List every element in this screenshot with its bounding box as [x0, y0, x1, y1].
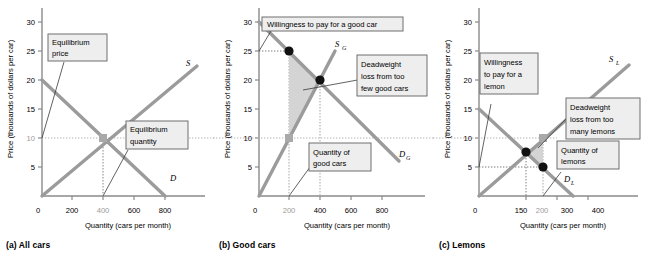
callout-deadweight-good-line1: Deadweight — [361, 60, 402, 69]
y-tick-a-30: 30 — [27, 18, 35, 27]
callout-quantity-lemons-line2: lemons — [561, 157, 586, 166]
supply-curve-label-b: S — [335, 39, 340, 49]
equilibrium-point-marker-a — [99, 134, 107, 142]
willingness-to-pay-marker-b — [284, 46, 293, 55]
leader-equilibrium-quantity-a — [103, 150, 128, 196]
y-tick-a-25: 25 — [27, 47, 35, 56]
supply-curve-sublabel-c: L — [615, 60, 620, 66]
leader-willingness-b — [259, 31, 271, 51]
panel-lemons: 30 25 20 15 10 5 0 150 200 300 400 — [433, 0, 645, 256]
callout-quantity-good-line2: good cars — [313, 159, 347, 168]
panel-caption-a: (a) All cars — [6, 240, 50, 250]
panel-lemons-chart: 30 25 20 15 10 5 0 150 200 300 400 — [433, 0, 645, 256]
demand-curve-label-c: D — [563, 174, 571, 184]
supply-curve-sublabel-b: G — [342, 45, 347, 51]
callout-deadweight-lemons-line1: Deadweight — [570, 103, 611, 112]
y-tick-a-10: 10 — [27, 134, 35, 143]
efficient-equilibrium-marker-b — [315, 75, 324, 84]
panel-all-cars-chart: 30 25 20 15 10 5 0 200 400 600 800 — [0, 0, 215, 256]
x-tick-b-600: 600 — [345, 206, 358, 215]
y-tick-c-20: 20 — [464, 76, 472, 85]
x-tick-a-200: 200 — [66, 206, 79, 215]
x-tick-c-150: 150 — [515, 206, 528, 215]
x-tick-a-800: 800 — [159, 206, 172, 215]
y-tick-c-30: 30 — [464, 18, 472, 27]
x-tick-a-600: 600 — [128, 206, 141, 215]
panel-good-cars-chart: 30 25 20 15 10 5 0 200 400 600 800 — [213, 0, 435, 256]
y-tick-b-15: 15 — [244, 105, 252, 114]
y-axis-title-a: Price (thousands of dollars per car) — [6, 39, 15, 158]
callout-willingness-lemon-line2: to pay for a — [484, 70, 523, 79]
callout-deadweight-lemons-line2: loss from too — [570, 115, 613, 124]
callout-deadweight-loss-lemons: Deadweight loss from too many lemons — [566, 98, 640, 139]
callout-equilibrium-quantity-line2: quantity — [130, 137, 157, 146]
supply-curve-label-c: S — [609, 54, 614, 64]
x-tick-b-200: 200 — [283, 206, 296, 215]
x-tick-a-0: 0 — [36, 206, 40, 215]
y-tick-a-5: 5 — [31, 163, 35, 172]
demand-curve-label-b: D — [398, 149, 406, 159]
callout-deadweight-loss-good: Deadweight loss from too few good cars — [357, 55, 427, 96]
demand-curve-sublabel-b: G — [406, 155, 411, 161]
callout-quantity-of-good-cars: Quantity of good cars — [309, 143, 371, 171]
panel-caption-c: (c) Lemons — [439, 240, 485, 250]
callout-deadweight-lemons-line3: many lemons — [570, 127, 615, 136]
callout-equilibrium-price: Equilibrium price — [48, 34, 107, 61]
callout-equilibrium-quantity: Equilibrium quantity — [126, 121, 188, 149]
y-tick-a-15: 15 — [27, 105, 35, 114]
callout-equilibrium-price-line1: Equilibrium — [52, 38, 90, 47]
callout-willingness-lemon-line3: lemon — [484, 82, 505, 91]
y-tick-c-15: 15 — [464, 105, 472, 114]
callout-quantity-of-lemons: Quantity of lemons — [557, 141, 619, 169]
x-tick-c-400: 400 — [592, 206, 605, 215]
willingness-to-pay-lemon-marker-c — [538, 162, 547, 171]
efficient-equilibrium-marker-c — [521, 147, 530, 156]
y-tick-b-30: 30 — [244, 18, 252, 27]
supply-curve-label-a: S — [186, 58, 191, 68]
x-tick-c-300: 300 — [561, 206, 574, 215]
y-tick-c-25: 25 — [464, 47, 472, 56]
callout-willingness-to-pay-good-car: Willingness to pay for a good car — [262, 17, 403, 31]
x-tick-a-400: 400 — [97, 206, 110, 215]
x-tick-b-800: 800 — [376, 206, 389, 215]
x-tick-b-400: 400 — [314, 206, 327, 215]
callout-willingness-to-pay-lemon: Willingness to pay for a lemon — [480, 53, 538, 94]
callout-willingness-lemon-line1: Willingness — [484, 58, 523, 67]
callout-quantity-lemons-line1: Quantity of — [561, 146, 599, 155]
panel-good-cars: 30 25 20 15 10 5 0 200 400 600 800 — [213, 0, 435, 256]
callout-quantity-good-line1: Quantity of — [313, 148, 351, 157]
callout-willingness-good-line1: Willingness to pay for a good car — [267, 20, 378, 29]
demand-curve-label-a: D — [169, 173, 177, 183]
panel-all-cars: 30 25 20 15 10 5 0 200 400 600 800 — [0, 0, 215, 256]
demand-curve-sublabel-c: L — [570, 180, 575, 186]
callout-equilibrium-quantity-line1: Equilibrium — [130, 125, 168, 134]
panel-caption-b: (b) Good cars — [219, 240, 276, 250]
callout-deadweight-good-line2: loss from too — [361, 72, 404, 81]
callout-deadweight-good-line3: few good cars — [361, 84, 408, 93]
x-tick-c-200: 200 — [536, 206, 549, 215]
y-tick-b-10: 10 — [244, 134, 252, 143]
deadweight-loss-region-b — [289, 51, 320, 138]
leader-quantity-good-b — [289, 167, 310, 196]
x-tick-b-0: 0 — [253, 206, 257, 215]
y-tick-a-20: 20 — [27, 76, 35, 85]
market-outcome-marker-b — [285, 134, 293, 142]
y-tick-b-5: 5 — [248, 163, 252, 172]
y-axis-title-b: Price (thousands of dollars per car) — [223, 39, 232, 158]
market-outcome-marker-c — [539, 134, 547, 142]
y-axis-title-c: Price (thousands of dollars per car) — [443, 39, 452, 158]
x-axis-title-b: Quantity (cars per month) — [304, 221, 391, 230]
callout-equilibrium-price-line2: price — [52, 49, 68, 58]
y-tick-b-25: 25 — [244, 47, 252, 56]
leader-equilibrium-price-a — [42, 62, 64, 138]
y-tick-c-10: 10 — [464, 134, 472, 143]
figure-container: 30 25 20 15 10 5 0 200 400 600 800 — [0, 0, 645, 256]
y-tick-c-5: 5 — [468, 163, 472, 172]
x-axis-title-c: Quantity (cars per month) — [520, 221, 607, 230]
y-tick-b-20: 20 — [244, 76, 252, 85]
x-tick-c-0: 0 — [473, 206, 477, 215]
x-axis-title-a: Quantity (cars per month) — [85, 221, 172, 230]
